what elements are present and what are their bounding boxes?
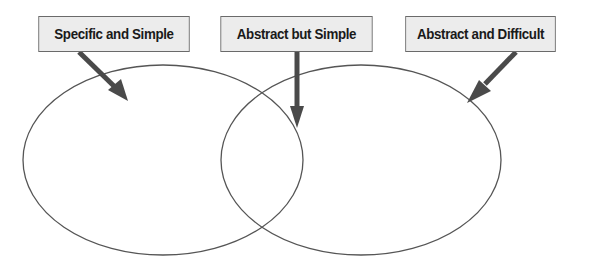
label-abstract-simple-text: Abstract but Simple — [237, 25, 356, 43]
arrow-center — [290, 52, 304, 128]
label-abstract-simple: Abstract but Simple — [220, 16, 372, 52]
label-specific-simple: Specific and Simple — [38, 16, 189, 52]
label-abstract-difficult: Abstract and Difficult — [405, 16, 556, 52]
arrow-right — [467, 52, 516, 103]
label-specific-simple-text: Specific and Simple — [54, 25, 173, 43]
label-abstract-difficult-text: Abstract and Difficult — [417, 25, 544, 43]
arrow-left — [79, 52, 128, 101]
